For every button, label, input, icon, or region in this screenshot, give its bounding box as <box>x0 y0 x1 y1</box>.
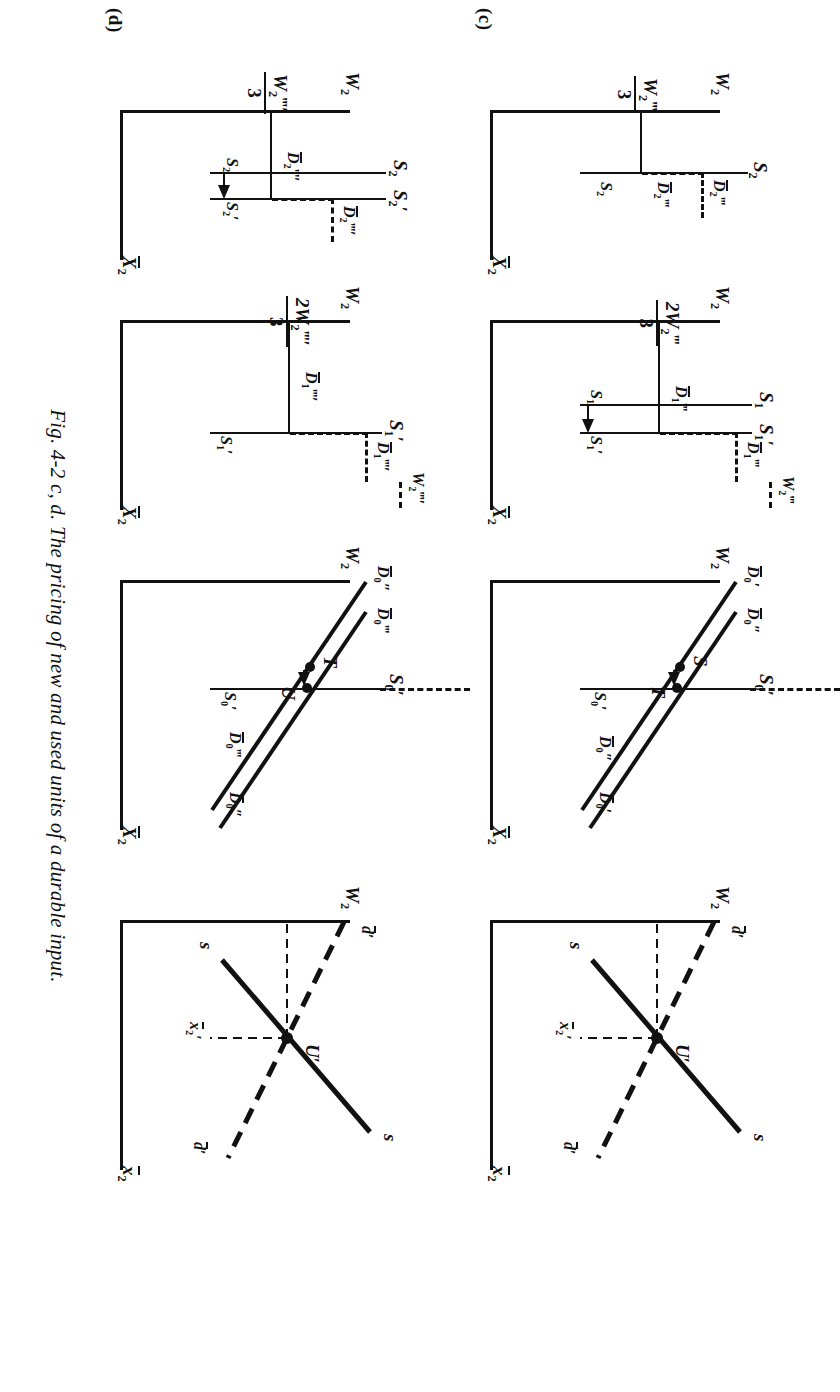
panel-d2-demand-label-low: D1‴′ <box>300 372 320 401</box>
panel-d3-point-label-t: T <box>321 656 340 668</box>
panel-c4-quantity-label: x2′ <box>554 1022 574 1039</box>
panel-c2-demand-step-riser <box>660 432 738 435</box>
panel-d4-curves <box>120 900 440 1200</box>
panel-d4-quantity-label: x2′ <box>184 1022 204 1039</box>
panel-d1-demand-step-riser <box>272 198 334 201</box>
panel-d2-demand-step-high <box>365 432 368 482</box>
panel-d3-demand-label-axis-lower: D0‴ <box>224 732 244 757</box>
panel-c3-demand-label-axis-upper: D0′ <box>594 792 614 813</box>
rotated-page-wrapper: (c) W2 X2 S2 S2 <box>0 0 840 1392</box>
panel-d2-price-fraction: 2W2‴′ 3 <box>267 296 312 347</box>
panel-c3-demand-label-upper: D0′ <box>742 566 762 587</box>
panel-d4: W2 x2 U′ d′ d′ s s x2′ <box>120 900 440 1200</box>
panel-c1-demand-label-upper: D2‴ <box>708 180 728 205</box>
panel-d2-supply-label-inside: S1′ <box>215 436 234 454</box>
panel-d2-demand-label-high: D1‴′ <box>372 442 392 471</box>
panel-d4-equilibrium-label: U′ <box>303 1044 322 1063</box>
panel-d2-price-dash <box>399 482 402 508</box>
figure-row-c: (c) W2 X2 S2 S2 <box>480 0 810 1392</box>
panel-d3-point-label-u: U <box>279 686 298 700</box>
panel-c1-demand-label: D2‴ <box>652 182 672 207</box>
panel-c2-price-fraction: 2W2‴ 3 <box>637 300 682 346</box>
panel-c3-demand-label-axis-lower: D0″ <box>594 736 614 761</box>
panel-d4-supply-label-top: s <box>381 1134 400 1141</box>
figure-caption: Fig. 4-2 c, d. The pricing of new and us… <box>45 0 70 1392</box>
panel-c3-demand-curves <box>490 560 810 850</box>
panel-d2-demand-step-riser <box>290 432 368 435</box>
panel-c2-price-dash-label: W2‴ <box>777 476 796 504</box>
panel-c2-demand-label-low: D1‴ <box>670 386 690 411</box>
panel-d2-supply-label-top: S1′ <box>383 420 406 442</box>
panel-c3: W2 X2 S0′ S0′ <box>490 560 810 850</box>
panel-c3-tie-line-up <box>750 688 840 691</box>
panel-c1-price-fraction: W2‴ 3 <box>615 76 660 113</box>
panel-d1-demand-label-upper: D2‴′ <box>338 206 358 235</box>
panel-d1: W2 X2 S2 S2′ S2 S2′ <box>120 70 440 270</box>
panel-c2: W2 X2 S1 S1′ S1 S1′ <box>490 300 810 530</box>
panel-c4-supply-curve <box>592 960 740 1132</box>
panel-d1-demand-label: D2‴′ <box>282 152 302 181</box>
figure-sheet: (c) W2 X2 S2 S2 <box>0 0 840 1392</box>
panel-c1-demand-step-high <box>701 172 704 218</box>
panel-c3-point-label-s: S <box>691 656 710 667</box>
panel-d4-demand-label-right: d′ <box>191 1142 208 1154</box>
panel-d4-supply-label-bottom: s <box>197 942 216 949</box>
panel-d3-demand-label-lower: D0‴ <box>372 608 392 633</box>
panel-c1-demand-step-low <box>640 110 642 172</box>
panel-d3-demand-curves <box>120 560 440 850</box>
panel-c1-x-axis-label: X2 <box>486 256 510 275</box>
panel-d2-x-axis-label: X2 <box>116 506 140 525</box>
row-label-d: (d) <box>106 8 125 33</box>
panel-d2-axes <box>120 320 350 510</box>
panel-c1-y-axis-label: W2 <box>709 72 732 95</box>
panel-c3-demand-label-lower: D0″ <box>742 608 762 633</box>
row-label-c: (c) <box>476 8 495 31</box>
panel-c1-supply-label-inside: S2 <box>595 182 614 196</box>
panel-c4-demand-label-right: d′ <box>561 1142 578 1154</box>
panel-d1-demand-step-low <box>270 110 272 198</box>
panel-c1: W2 X2 S2 S2 D2‴ D2‴ <box>490 70 810 270</box>
panel-d1-price-fraction: W2‴′ 3 <box>245 72 290 114</box>
panel-c2-price-dash <box>769 482 772 508</box>
panel-c1-demand-step-riser <box>642 172 704 175</box>
panel-d3-demand-label-upper: D0″ <box>372 566 392 591</box>
panel-c1-supply-label-top: S2 <box>747 162 770 179</box>
panel-d4-supply-curve <box>222 960 370 1132</box>
panel-c2-demand-label-high: D1‴ <box>742 442 762 467</box>
panel-c4-supply-label-bottom: s <box>567 942 586 949</box>
figure-row-d: (d) W2 X2 S2 S2′ S2 S2′ <box>110 0 440 1392</box>
panel-d2-y-axis-label: W2 <box>339 286 362 309</box>
panel-d1-demand-step-high <box>331 198 334 242</box>
panel-d3: W2 X2 S0′ S0′ <box>120 560 440 850</box>
panel-c4: W2 x2 U′ d′ <box>490 900 810 1200</box>
panel-d3-demand-label-axis-upper: D0″ <box>224 792 244 817</box>
panel-d3-tie-line-up <box>380 688 470 691</box>
panel-c4-demand-label-left: d′ <box>729 926 746 938</box>
panel-d4-demand-label-left: d′ <box>359 926 376 938</box>
panel-c4-supply-label-top: s <box>751 1134 770 1141</box>
panel-d2-price-dash-label: W2‴′ <box>407 472 426 504</box>
panel-c4-equilibrium-label: U′ <box>673 1044 692 1063</box>
panel-c3-point-label-t: T <box>649 686 668 698</box>
panel-c2-demand-step-high <box>735 432 738 482</box>
panel-d2: W2 X2 S1′ S1′ D1‴′ D1‴′ <box>120 300 440 530</box>
panel-c4-curves <box>490 900 810 1200</box>
